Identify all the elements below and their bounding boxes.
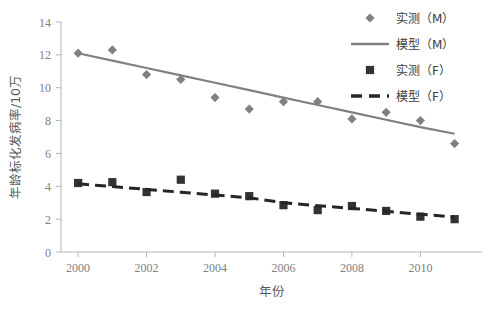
y-tick-label: 4 [45,180,51,194]
data-point-diamond [347,114,356,123]
square-marker-icon [366,66,374,74]
series-line-3 [78,184,455,217]
legend-item-label-3: 模型（F） [396,90,451,104]
data-point-diamond [382,108,391,117]
data-point-diamond [450,139,459,148]
chart-figure: 02468101214200020022004200620082010年龄标化发… [0,0,496,310]
x-tick-label: 2004 [203,261,227,275]
data-point-square [108,178,116,186]
y-tick-label: 2 [45,213,51,227]
y-tick-label: 8 [45,114,51,128]
legend-item-label-0: 实测（M） [396,11,454,26]
legend-item-label-1: 模型（M） [396,38,454,52]
chart-canvas: 02468101214200020022004200620082010年龄标化发… [0,0,496,310]
y-tick-label: 12 [39,48,51,62]
y-axis-title: 年龄标化发病率/10万 [8,75,23,199]
data-point-square [177,176,185,184]
y-tick-label: 10 [39,81,51,95]
x-tick-label: 2002 [135,261,159,275]
data-point-diamond [142,70,151,79]
x-axis-title: 年份 [259,284,285,299]
data-point-diamond [416,116,425,125]
y-tick-label: 0 [45,246,51,260]
diamond-marker-icon [365,13,374,22]
y-tick-label: 6 [45,147,51,161]
x-tick-label: 2008 [340,261,364,275]
x-tick-label: 2010 [408,261,432,275]
legend-item-label-2: 实测（F） [396,63,451,78]
data-point-diamond [245,104,254,113]
data-point-diamond [108,45,117,54]
y-tick-label: 14 [39,16,51,30]
x-tick-label: 2000 [66,261,90,275]
data-point-diamond [210,93,219,102]
x-tick-label: 2006 [271,261,295,275]
